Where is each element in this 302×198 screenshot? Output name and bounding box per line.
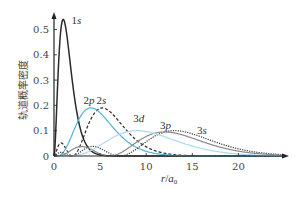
curve-label-2p: 2p — [84, 94, 96, 106]
x-tick-label: 5 — [97, 161, 103, 172]
y-tick-label: 0.1 — [33, 125, 49, 136]
curve-3p — [54, 132, 285, 156]
curve-label-2s: 2s — [96, 94, 106, 106]
y-axis-arrow-icon — [52, 12, 57, 19]
y-tick-label: 0.4 — [33, 49, 49, 60]
y-tick-label: 0.3 — [33, 75, 49, 86]
y-tick-label: 0.2 — [33, 100, 49, 111]
curve-label-3p: 3p — [160, 119, 172, 131]
axes — [52, 12, 290, 159]
x-axis-arrow-icon — [282, 154, 289, 159]
y-tick-label: 0.5 — [33, 24, 49, 35]
x-axis-title: r/a0 — [161, 172, 178, 186]
x-tick-label: 20 — [232, 161, 245, 172]
y-axis-title: 轨道概率密度 — [17, 60, 29, 120]
curve-label-1s: 1s — [72, 14, 82, 26]
curve-label-3d: 3d — [133, 112, 145, 124]
curve-1s — [54, 19, 285, 156]
curve-label-3s: 3s — [197, 124, 207, 136]
x-tick-label: 15 — [186, 161, 199, 172]
orbital-density-chart: 05101520 00.10.20.30.40.5 1s2p2s3d3p3s r… — [0, 0, 302, 198]
x-tick-label: 0 — [51, 161, 57, 172]
x-tick-label: 10 — [140, 161, 153, 172]
plot-curves — [54, 19, 285, 156]
y-tick-label: 0 — [43, 151, 49, 162]
